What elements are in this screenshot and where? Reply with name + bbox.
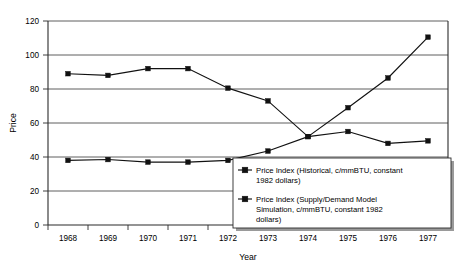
x-tick-label-1976: 1976: [379, 234, 398, 243]
x-tick-label-1969: 1969: [99, 234, 118, 243]
data-point: [426, 139, 431, 144]
data-point: [386, 141, 391, 146]
x-tick-label-1971: 1971: [179, 234, 198, 243]
data-point: [386, 76, 391, 81]
data-point: [146, 66, 151, 71]
y-tick-labels: 120 100 80 60 40 20 0: [25, 17, 39, 230]
x-tick-label-1970: 1970: [139, 234, 158, 243]
x-tick-label-1972: 1972: [219, 234, 238, 243]
x-axis-title: Year: [239, 252, 257, 262]
legend-marker-model: [242, 196, 248, 202]
y-tickmarks: [43, 21, 48, 225]
y-tick-label-40: 40: [30, 153, 40, 162]
data-point: [226, 158, 231, 163]
y-tick-label-0: 0: [34, 221, 39, 230]
legend-label-historical-line2: 1982 dollars): [256, 176, 301, 185]
data-point: [306, 134, 311, 139]
line-chart: 120 100 80 60 40 20 0 1968 1969 1970: [0, 0, 458, 271]
x-tick-label-1974: 1974: [299, 234, 318, 243]
data-point: [66, 71, 71, 76]
data-point: [346, 105, 351, 110]
x-tick-label-1973: 1973: [259, 234, 278, 243]
x-tick-label-1977: 1977: [419, 234, 438, 243]
chart-container: 120 100 80 60 40 20 0 1968 1969 1970: [0, 0, 458, 271]
legend-label-historical-line1: Price Index (Historical, c/mmBTU, consta…: [256, 166, 403, 175]
y-tick-label-120: 120: [25, 17, 39, 26]
data-point: [426, 35, 431, 40]
legend-label-model-line3: dollars): [256, 215, 282, 224]
data-point: [226, 86, 231, 91]
data-series-layer: [66, 35, 431, 165]
data-point: [346, 129, 351, 134]
y-tick-label-100: 100: [25, 51, 39, 60]
y-tick-label-80: 80: [30, 85, 40, 94]
data-point: [186, 66, 191, 71]
legend-label-model-line1: Price Index (Supply/Demand Model: [256, 195, 377, 204]
x-tick-labels: 1968 1969 1970 1971 1972 1973 1974 1975 …: [59, 234, 438, 243]
series-line: [68, 132, 428, 163]
data-point: [66, 158, 71, 163]
data-point: [266, 149, 271, 154]
data-point: [186, 160, 191, 165]
data-point: [266, 99, 271, 104]
y-tick-label-60: 60: [30, 119, 40, 128]
legend-marker-historical: [242, 167, 248, 173]
x-tick-label-1968: 1968: [59, 234, 78, 243]
y-tick-label-20: 20: [30, 187, 40, 196]
x-tick-label-1975: 1975: [339, 234, 358, 243]
data-point: [106, 157, 111, 162]
y-axis-title: Price: [8, 113, 18, 133]
series-line: [68, 37, 428, 136]
data-point: [106, 73, 111, 78]
legend-label-model-line2: Simulation, c/mmBTU, constant 1982: [256, 205, 383, 214]
chart-legend[interactable]: Price Index (Historical, c/mmBTU, consta…: [233, 158, 454, 231]
data-point: [146, 160, 151, 165]
